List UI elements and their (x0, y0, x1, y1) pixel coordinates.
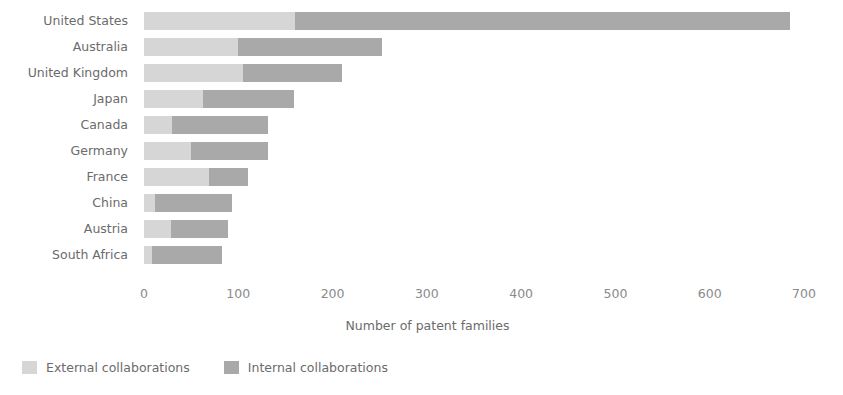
bar-row (144, 112, 804, 138)
legend-swatch-external (22, 361, 37, 374)
x-axis-tick-label: 200 (321, 286, 345, 301)
legend-item[interactable]: Internal collaborations (224, 360, 388, 375)
x-axis-tick-label: 0 (140, 286, 148, 301)
x-axis-tick-label: 600 (698, 286, 722, 301)
x-axis-title: Number of patent families (0, 318, 843, 333)
bar-row (144, 8, 804, 34)
legend-label: Internal collaborations (248, 360, 388, 375)
bar-segment-external (144, 64, 243, 82)
x-axis-ticks: 0100200300400500600700 (144, 286, 843, 306)
bar-segment-external (144, 168, 209, 186)
stacked-bar (144, 12, 790, 30)
y-axis-label: China (0, 190, 136, 216)
y-axis-label: Austria (0, 216, 136, 242)
bar-segment-internal (191, 142, 267, 160)
plot-area (144, 8, 804, 280)
bar-segment-internal (295, 12, 790, 30)
y-axis-label: Germany (0, 138, 136, 164)
x-axis-tick-label: 500 (603, 286, 627, 301)
bar-segment-external (144, 90, 203, 108)
y-axis-category-labels: United StatesAustraliaUnited KingdomJapa… (0, 8, 136, 280)
bar-segment-internal (209, 168, 248, 186)
y-axis-label: Japan (0, 86, 136, 112)
bar-row (144, 190, 804, 216)
bar-rows (144, 8, 804, 268)
bar-segment-external (144, 194, 155, 212)
stacked-bar (144, 142, 268, 160)
bar-segment-internal (171, 220, 228, 238)
bar-segment-internal (238, 38, 381, 56)
x-axis-tick-label: 400 (509, 286, 533, 301)
chart-legend: External collaborationsInternal collabor… (22, 360, 422, 375)
bar-segment-internal (172, 116, 267, 134)
bar-row (144, 242, 804, 268)
bar-segment-external (144, 220, 171, 238)
bar-segment-external (144, 12, 295, 30)
bar-segment-internal (155, 194, 231, 212)
legend-item[interactable]: External collaborations (22, 360, 190, 375)
bar-segment-external (144, 246, 152, 264)
stacked-bar (144, 90, 294, 108)
bar-row (144, 138, 804, 164)
legend-label: External collaborations (46, 360, 190, 375)
stacked-bar (144, 64, 342, 82)
bar-row (144, 60, 804, 86)
legend-swatch-internal (224, 361, 239, 374)
bar-segment-external (144, 142, 191, 160)
y-axis-label: France (0, 164, 136, 190)
bar-segment-external (144, 38, 238, 56)
bar-segment-external (144, 116, 172, 134)
stacked-bar (144, 246, 222, 264)
x-axis-tick-label: 100 (226, 286, 250, 301)
y-axis-label: Australia (0, 34, 136, 60)
stacked-bar (144, 194, 232, 212)
stacked-bar-chart: United StatesAustraliaUnited KingdomJapa… (0, 0, 843, 395)
bar-segment-internal (243, 64, 342, 82)
y-axis-label: United States (0, 8, 136, 34)
stacked-bar (144, 116, 268, 134)
bar-segment-internal (152, 246, 223, 264)
bar-row (144, 216, 804, 242)
stacked-bar (144, 38, 382, 56)
bar-segment-internal (203, 90, 294, 108)
y-axis-label: South Africa (0, 242, 136, 268)
stacked-bar (144, 220, 228, 238)
x-axis-tick-label: 700 (792, 286, 816, 301)
bar-row (144, 34, 804, 60)
stacked-bar (144, 168, 248, 186)
bar-row (144, 164, 804, 190)
y-axis-label: United Kingdom (0, 60, 136, 86)
x-axis-tick-label: 300 (415, 286, 439, 301)
y-axis-label: Canada (0, 112, 136, 138)
bar-row (144, 86, 804, 112)
